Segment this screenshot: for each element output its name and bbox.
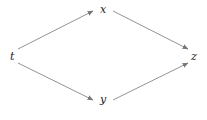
edge-x-to-z [113, 11, 188, 49]
node-t: t [10, 50, 15, 63]
edge-y-to-z [113, 63, 188, 100]
edge-t-to-x [18, 11, 93, 49]
diagram-canvas: t x y z [0, 0, 207, 120]
node-y: y [99, 93, 107, 106]
node-x: x [100, 3, 107, 16]
edge-t-to-y [18, 63, 93, 100]
node-z: z [190, 50, 197, 63]
